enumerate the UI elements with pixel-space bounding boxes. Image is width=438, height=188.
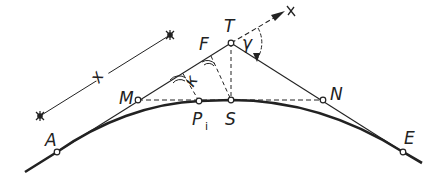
- x-axis-extension: [231, 15, 279, 43]
- curve-construction-diagram: κ γ x A M F T S P i N E: [0, 0, 438, 188]
- angle-arc-F-2: [204, 63, 214, 66]
- label-S: S: [225, 109, 236, 129]
- label-M: M: [119, 88, 134, 108]
- x-axis-arrow-icon: [271, 11, 285, 21]
- main-curve: [25, 100, 422, 172]
- label-N: N: [330, 84, 343, 104]
- label-E: E: [404, 128, 415, 148]
- label-F: F: [199, 34, 209, 54]
- label-Pi-subscript: i: [205, 120, 208, 133]
- point-T: [228, 40, 234, 46]
- point-A: [54, 149, 60, 155]
- label-A: A: [44, 130, 57, 150]
- point-N: [320, 97, 326, 103]
- tangent-A-T: [57, 43, 231, 152]
- point-S: [228, 97, 234, 103]
- point-M: [135, 97, 141, 103]
- point-markers: [54, 40, 406, 155]
- point-Pi: [196, 98, 202, 104]
- kappa-label: κ: [179, 71, 201, 90]
- dimension-end-star-icon: [36, 111, 44, 121]
- dimension-end-star-icon: [166, 30, 174, 40]
- point-E: [400, 149, 406, 155]
- x-axis-label: [287, 6, 295, 16]
- label-T: T: [224, 16, 236, 36]
- gamma-label: γ: [242, 33, 253, 53]
- label-Pi: P: [192, 109, 203, 129]
